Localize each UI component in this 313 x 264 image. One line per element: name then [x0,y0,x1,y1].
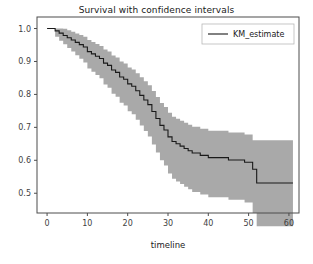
y-tick-label: 1.0 [18,25,31,34]
x-tick-label: 20 [123,219,133,228]
x-tick-label: 50 [244,219,254,228]
y-tick-label: 0.5 [18,189,31,198]
chart-legend[interactable]: KM_estimate [202,24,294,44]
x-axis-ticks: 0102030405060 [45,213,294,228]
x-tick-label: 30 [163,219,173,228]
y-tick-label: 0.7 [18,123,31,132]
x-axis-title: timeline [151,240,186,250]
y-tick-label: 0.6 [18,156,31,165]
legend-label-km-estimate: KM_estimate [233,30,284,39]
y-tick-label: 0.8 [18,90,31,99]
x-tick-label: 40 [203,219,213,228]
y-axis-ticks: 0.50.60.70.80.91.0 [18,25,37,199]
y-tick-label: 0.9 [18,57,31,66]
survival-plot: 0102030405060 0.50.60.70.80.91.0 timelin… [0,0,313,264]
x-tick-label: 10 [82,219,92,228]
chart-figure: Survival with confidence intervals 01020… [0,0,313,264]
x-tick-label: 60 [284,219,294,228]
x-tick-label: 0 [45,219,50,228]
